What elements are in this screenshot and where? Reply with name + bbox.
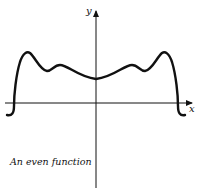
x-axis-label: x <box>189 103 195 114</box>
y-axis-label: y <box>86 5 92 16</box>
caption: An even function <box>10 156 92 167</box>
